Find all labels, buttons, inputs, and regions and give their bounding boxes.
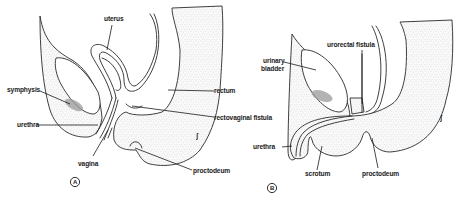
panel-b: ʃ urinary bladder urorectal fistula uret… bbox=[253, 20, 453, 193]
label-proctodeum-b: proctodeum bbox=[362, 170, 399, 178]
panel-marker-a: A bbox=[70, 177, 79, 186]
leader-uterus-a bbox=[107, 25, 112, 50]
label-uterus-a: uterus bbox=[104, 15, 124, 22]
label-symphysis-a: symphysis bbox=[7, 86, 41, 94]
label-proctodeum-a: proctodeum bbox=[193, 167, 230, 175]
rectum-a bbox=[114, 6, 223, 165]
panel-marker-b: B bbox=[267, 183, 276, 192]
urorectal-wall-b bbox=[366, 26, 386, 114]
panel-marker-a-text: A bbox=[73, 179, 78, 185]
label-urethra-a: urethra bbox=[17, 121, 39, 128]
panel-marker-b-text: B bbox=[270, 185, 275, 191]
label-vagina-a: vagina bbox=[78, 160, 99, 168]
label-urethra-b: urethra bbox=[253, 143, 275, 150]
uterus-outer-a bbox=[91, 14, 157, 98]
anatomy-figure: ʃ uterus symphysis urethra vagina rectum… bbox=[0, 0, 463, 201]
label-scrotum-b: scrotum bbox=[305, 170, 331, 177]
label-urinary-b: urinary bbox=[263, 57, 285, 65]
panel-a: ʃ uterus symphysis urethra vagina rectum… bbox=[7, 6, 273, 187]
label-bladder-b: bladder bbox=[261, 65, 285, 72]
uterus-inner-a bbox=[99, 14, 158, 98]
sphincter-symbol-b: ʃ bbox=[439, 114, 443, 122]
label-rectum-a: rectum bbox=[214, 87, 236, 94]
figure-canvas: ʃ uterus symphysis urethra vagina rectum… bbox=[0, 0, 463, 201]
label-rectovaginal-fistula-a: rectovaginal fistula bbox=[214, 114, 273, 122]
label-urorectal-fistula-b: urorectal fistula bbox=[327, 41, 375, 48]
